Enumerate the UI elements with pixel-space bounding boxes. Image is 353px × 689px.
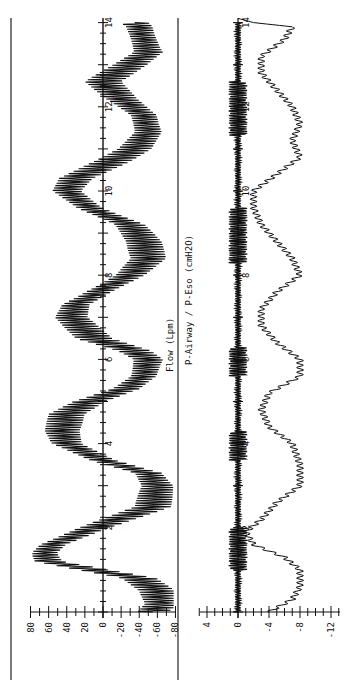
time-tick-label: 8 bbox=[241, 272, 251, 277]
flow-title: Flow (Lpm) bbox=[165, 318, 175, 372]
time-tick-label: 10 bbox=[104, 186, 114, 197]
rotated-chart-figure: 2468101214 806040200-20-40-60-80 Flow (L… bbox=[0, 0, 353, 689]
flow-tick-label: 60 bbox=[44, 622, 54, 633]
time-tick-label: 6 bbox=[104, 357, 114, 362]
time-tick-label: 14 bbox=[104, 17, 114, 28]
flow-panel: 2468101214 806040200-20-40-60-80 Flow (L… bbox=[11, 17, 180, 680]
flow-tick-label: 20 bbox=[80, 622, 90, 633]
time-tick-label: 4 bbox=[104, 441, 114, 446]
pressure-tick-label: -4 bbox=[264, 622, 274, 633]
flow-tick-label: 0 bbox=[98, 622, 108, 627]
time-tick-label: 14 bbox=[241, 17, 251, 28]
flow-tick-label: 80 bbox=[26, 622, 36, 633]
flow-tick-label: -80 bbox=[170, 622, 180, 638]
pressure-tick-label: 4 bbox=[202, 622, 212, 627]
pressure-tick-label: -12 bbox=[326, 622, 336, 638]
pressure-title: P-Airway / P-Eso (cmH2O) bbox=[184, 235, 194, 365]
pressure-panel: 2468101214 40-4-8-12 P-Airway / P-Eso (c… bbox=[184, 17, 340, 638]
flow-tick-label: -40 bbox=[134, 622, 144, 638]
flow-tick-label: -60 bbox=[152, 622, 162, 638]
pressure-tick-label: -8 bbox=[295, 622, 305, 633]
time-tick-label: 12 bbox=[104, 101, 114, 112]
time-tick-label: 8 bbox=[104, 272, 114, 277]
flow-tick-label: -20 bbox=[116, 622, 126, 638]
flow-tick-label: 40 bbox=[62, 622, 72, 633]
pressure-tick-label: 0 bbox=[233, 622, 243, 627]
